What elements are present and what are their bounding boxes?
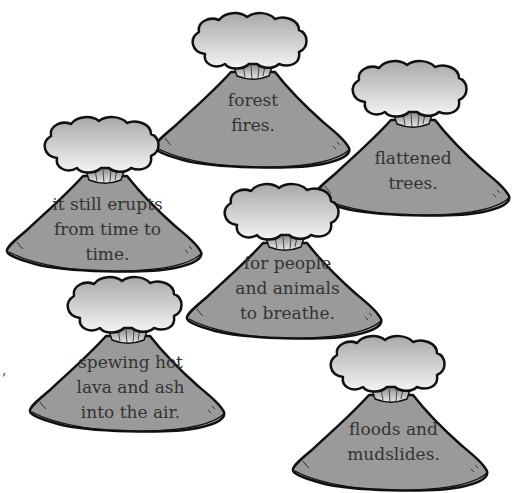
card-text-line: time. bbox=[5, 242, 210, 267]
volcano-icon bbox=[291, 337, 496, 493]
card-text-line: lava and ash bbox=[28, 375, 233, 400]
card-text-line: into the air. bbox=[28, 400, 233, 425]
stray-comma: , bbox=[2, 362, 6, 378]
card-text-line: flattened bbox=[313, 146, 513, 171]
volcano-card-still-erupts: it still erupts from time to time. bbox=[5, 118, 210, 274]
card-text-line: for people bbox=[185, 251, 390, 276]
card-text-line: from time to bbox=[5, 217, 210, 242]
card-text-line: spewing hot bbox=[28, 350, 233, 375]
volcano-card-floods-mudslides: floods and mudslides. bbox=[291, 337, 496, 493]
card-text-line: it still erupts bbox=[5, 192, 210, 217]
volcano-card-spewing-lava-ash: spewing hot lava and ash into the air. bbox=[28, 278, 233, 434]
card-text-line: floods and bbox=[291, 417, 496, 442]
card-text-line: mudslides. bbox=[291, 442, 496, 467]
